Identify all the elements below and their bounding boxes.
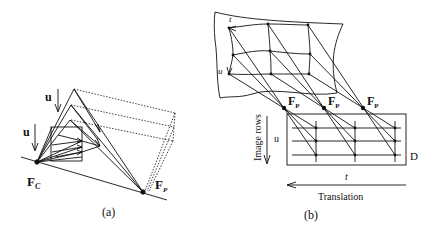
label-sheet-u: u xyxy=(218,66,223,76)
label-translation: Translation xyxy=(318,191,363,202)
fp-point-a xyxy=(141,190,145,194)
u-arrow-upper xyxy=(55,89,61,112)
fc-point xyxy=(35,160,39,164)
label-fc: FC xyxy=(27,174,41,191)
label-d: D xyxy=(410,150,418,162)
image-rows-arrow xyxy=(264,116,270,164)
u-arrow-lower xyxy=(32,124,38,151)
label-fp-a: FP xyxy=(155,177,168,194)
label-u-b: u xyxy=(274,133,279,144)
label-fp-b2: FP xyxy=(328,94,340,110)
panel-a xyxy=(21,89,175,200)
panel-b xyxy=(214,12,406,188)
sheet-points xyxy=(228,23,312,76)
label-image-rows: Image rows xyxy=(252,114,263,161)
sheet-grid xyxy=(229,24,310,74)
label-fp-b1: FP xyxy=(288,94,300,110)
caption-b: (b) xyxy=(304,208,318,222)
label-u-upper: u xyxy=(45,90,52,104)
label-fp-b3: FP xyxy=(367,94,379,110)
translation-arrow xyxy=(287,182,406,188)
label-u-lower: u xyxy=(23,125,30,139)
figure: u u FC FP (a) xyxy=(0,0,439,232)
caption-a: (a) xyxy=(102,205,115,219)
d-points xyxy=(315,127,397,157)
label-t: t xyxy=(345,171,348,182)
dotted-projections xyxy=(71,89,175,191)
